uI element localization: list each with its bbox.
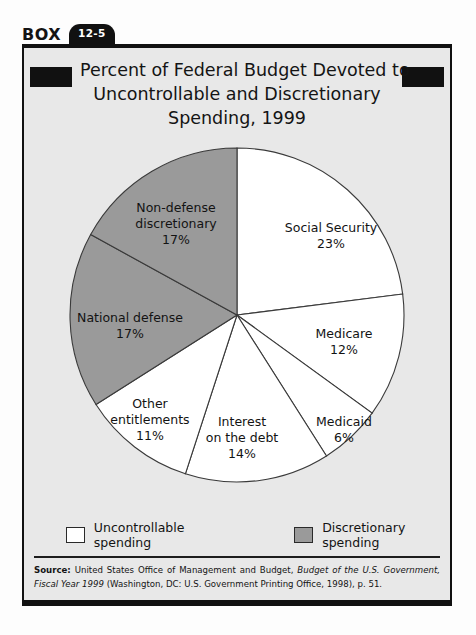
slice-label-interest-value: 14% [190, 446, 294, 462]
title-band: Percent of Federal Budget Devoted to Unc… [24, 54, 450, 142]
slice-label-other-entitlements-value: 11% [92, 428, 208, 444]
source-text-2: (Washington, DC: U.S. Government Printin… [104, 579, 382, 589]
slice-label-non-defense-value: 17% [114, 232, 238, 248]
slice-label-other-entitlements-line-2: entitlements [92, 412, 208, 428]
pie-chart: Social Security 23% Medicare 12% Medicai… [24, 142, 450, 512]
legend-swatch-discretionary [294, 527, 313, 543]
slice-label-social-security-value: 23% [266, 236, 396, 252]
page-title-line-3: Spending, 1999 [80, 106, 394, 130]
slice-label-other-entitlements-line-1: Other [92, 396, 208, 412]
legend-item-uncontrollable: Uncontrollable spending [66, 520, 228, 550]
source-text-1: United States Office of Management and B… [71, 565, 298, 575]
chart-legend: Uncontrollable spending Discretionary sp… [24, 518, 450, 552]
legend-swatch-uncontrollable [66, 527, 85, 543]
slice-label-national-defense: National defense 17% [62, 310, 198, 342]
slice-label-social-security: Social Security 23% [266, 220, 396, 252]
slice-label-medicare: Medicare 12% [292, 326, 396, 358]
slice-label-medicaid-value: 6% [300, 430, 388, 446]
page-canvas: BOX 12-5 Percent of Federal Budget Devot… [0, 0, 476, 635]
source-divider [34, 556, 440, 558]
source-note: Source: United States Office of Manageme… [34, 564, 440, 591]
page-title-line-1: Percent of Federal Budget Devoted to [80, 58, 394, 82]
box-number-tab: 12-5 [69, 24, 114, 44]
box-frame: Percent of Federal Budget Devoted to Unc… [22, 44, 452, 606]
slice-label-medicare-name: Medicare [292, 326, 396, 342]
slice-label-non-defense-line-2: discretionary [114, 216, 238, 232]
page-title-line-2: Uncontrollable and Discretionary [80, 82, 394, 106]
legend-item-discretionary: Discretionary spending [294, 520, 450, 550]
slice-label-non-defense-line-1: Non-defense [114, 200, 238, 216]
slice-label-other-entitlements: Other entitlements 11% [92, 396, 208, 444]
slice-label-social-security-name: Social Security [266, 220, 396, 236]
box-label: BOX [22, 26, 61, 44]
slice-label-national-defense-name: National defense [62, 310, 198, 326]
slice-label-medicaid-name: Medicaid [300, 414, 388, 430]
title-rule-left-decoration [30, 67, 72, 87]
page-title: Percent of Federal Budget Devoted to Unc… [80, 58, 394, 130]
slice-label-medicare-value: 12% [292, 342, 396, 358]
legend-label-discretionary: Discretionary spending [322, 520, 450, 550]
legend-label-uncontrollable: Uncontrollable spending [94, 520, 229, 550]
box-header: BOX 12-5 [22, 18, 115, 44]
slice-label-national-defense-value: 17% [62, 326, 198, 342]
source-label: Source: [34, 565, 71, 575]
slice-label-medicaid: Medicaid 6% [300, 414, 388, 446]
slice-label-non-defense-discretionary: Non-defense discretionary 17% [114, 200, 238, 248]
